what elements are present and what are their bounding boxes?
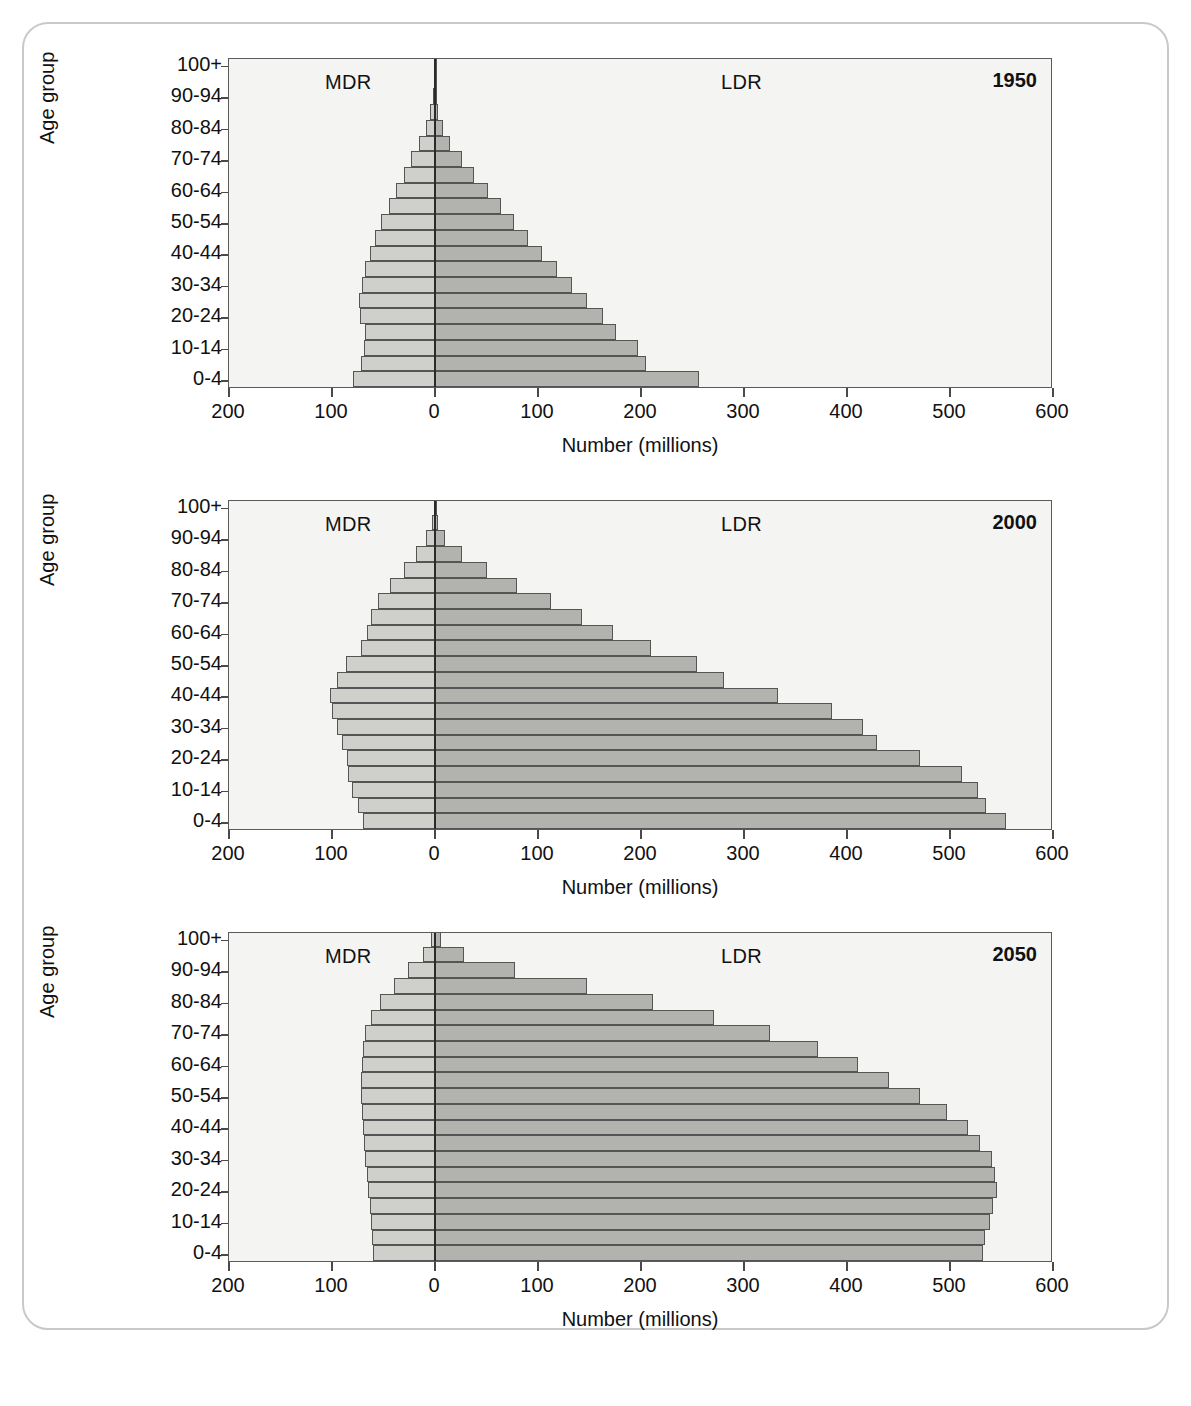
y-tick-mark	[221, 508, 228, 510]
bar-ldr	[435, 640, 651, 656]
bar-mdr	[364, 1135, 435, 1151]
bar-ldr	[435, 609, 582, 625]
age-band	[229, 593, 1051, 609]
age-band	[229, 609, 1051, 625]
y-axis-labels-1950: 0-410-1420-2430-3440-4450-5460-6470-7480…	[84, 58, 222, 388]
y-tick-label: 0-4	[136, 1241, 222, 1264]
bars-layer-1950	[229, 59, 1051, 387]
x-tick-label: 300	[703, 1274, 783, 1297]
bar-ldr	[435, 308, 603, 324]
x-tick-mark	[743, 830, 745, 839]
x-tick-mark	[949, 830, 951, 839]
bar-mdr	[348, 766, 435, 782]
bar-ldr	[435, 947, 464, 963]
x-tick-label: 100	[291, 842, 371, 865]
chart-panel-2050: Age group 0-410-1420-2430-3440-4450-5460…	[0, 894, 1191, 1334]
y-tick-mark	[221, 1034, 228, 1036]
y-tick-mark	[221, 602, 228, 604]
bar-mdr	[361, 356, 435, 372]
x-tick-label: 400	[806, 1274, 886, 1297]
y-tick-mark	[221, 349, 228, 351]
bar-ldr	[435, 994, 653, 1010]
mdr-region-label: MDR	[325, 513, 371, 536]
bar-ldr	[435, 719, 863, 735]
year-label-1950: 1950	[993, 69, 1038, 92]
x-tick-mark	[640, 388, 642, 397]
bar-mdr	[358, 798, 435, 814]
age-band	[229, 546, 1051, 562]
x-tick-label: 100	[497, 400, 577, 423]
age-band	[229, 1214, 1051, 1230]
bar-ldr	[435, 782, 978, 798]
age-band	[229, 625, 1051, 641]
age-band	[229, 1088, 1051, 1104]
age-band	[229, 151, 1051, 167]
bar-ldr	[435, 688, 778, 704]
y-tick-label: 90-94	[136, 84, 222, 107]
bar-mdr	[362, 277, 435, 293]
y-tick-label: 60-64	[136, 1053, 222, 1076]
bar-ldr	[435, 293, 587, 309]
y-tick-mark	[221, 1191, 228, 1193]
x-tick-mark	[846, 1262, 848, 1271]
bar-mdr	[359, 293, 435, 309]
bar-ldr	[435, 1104, 947, 1120]
bar-ldr	[435, 1010, 714, 1026]
bar-mdr	[419, 136, 435, 152]
bar-mdr	[365, 1151, 435, 1167]
bar-mdr	[361, 1072, 435, 1088]
y-tick-mark	[221, 1128, 228, 1130]
y-tick-label: 10-14	[136, 336, 222, 359]
x-tick-mark	[331, 830, 333, 839]
bar-ldr	[435, 1198, 993, 1214]
x-tick-mark	[640, 1262, 642, 1271]
bar-mdr	[404, 167, 435, 183]
x-tick-label: 300	[703, 842, 783, 865]
x-tick-mark	[537, 388, 539, 397]
age-band	[229, 356, 1051, 372]
x-tick-label: 600	[1012, 842, 1092, 865]
bars-layer-2050	[229, 933, 1051, 1261]
bar-ldr	[435, 214, 514, 230]
bar-ldr	[435, 356, 646, 372]
bar-ldr	[435, 1135, 980, 1151]
age-band	[229, 104, 1051, 120]
bar-ldr	[435, 1088, 920, 1104]
ldr-region-label: LDR	[721, 945, 762, 968]
x-tick-label: 100	[497, 842, 577, 865]
x-tick-label: 200	[188, 842, 268, 865]
bar-mdr	[330, 688, 435, 704]
bar-ldr	[435, 1120, 968, 1136]
bar-mdr	[390, 578, 435, 594]
ldr-region-label: LDR	[721, 513, 762, 536]
bar-mdr	[361, 640, 435, 656]
age-band	[229, 136, 1051, 152]
age-band	[229, 120, 1051, 136]
y-tick-label: 0-4	[136, 809, 222, 832]
age-band	[229, 719, 1051, 735]
bar-ldr	[435, 813, 1006, 829]
y-tick-label: 50-54	[136, 210, 222, 233]
year-label-2050: 2050	[993, 943, 1038, 966]
y-tick-mark	[221, 971, 228, 973]
y-tick-label: 60-64	[136, 621, 222, 644]
y-axis-labels-2050: 0-410-1420-2430-3440-4450-5460-6470-7480…	[84, 932, 222, 1262]
age-band	[229, 230, 1051, 246]
x-tick-mark	[228, 1262, 230, 1271]
y-tick-mark	[221, 728, 228, 730]
age-band	[229, 1198, 1051, 1214]
bar-mdr	[375, 230, 435, 246]
y-tick-mark	[221, 940, 228, 942]
y-tick-label: 70-74	[136, 589, 222, 612]
bar-ldr	[435, 932, 441, 947]
y-tick-label: 80-84	[136, 558, 222, 581]
y-tick-label: 70-74	[136, 147, 222, 170]
bar-ldr	[435, 1182, 997, 1198]
x-tick-mark	[331, 388, 333, 397]
bar-ldr	[435, 183, 488, 199]
y-axis-title: Age group	[36, 494, 59, 586]
x-tick-mark	[228, 830, 230, 839]
y-tick-mark	[221, 317, 228, 319]
age-band	[229, 782, 1051, 798]
y-tick-label: 60-64	[136, 179, 222, 202]
